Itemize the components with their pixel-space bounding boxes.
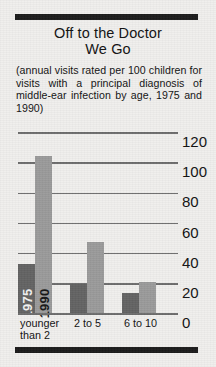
title-line-2: We Go [0,41,216,57]
y-axis-tick-40: 40 [182,255,216,270]
top-rule [15,14,198,20]
bar-1990-1: 1990 [35,156,52,314]
bar-1990-2 [87,242,104,314]
title-line-1: Off to the Doctor [0,25,216,41]
bar-1975-3 [122,293,139,314]
chart-card: Off to the Doctor We Go (annual visits r… [0,0,216,367]
y-axis-tick-80: 80 [182,194,216,209]
page-title: Off to the Doctor We Go [0,25,216,57]
gridline-120 [18,132,178,134]
bar-1990-3 [139,282,156,314]
x-axis-category-2: 2 to 5 [74,318,101,330]
y-axis-tick-120: 120 [182,134,216,149]
bar-1975-2 [70,284,87,314]
bar-1975-1: 1975 [18,264,35,314]
y-axis-tick-0: 0 [182,315,216,330]
bottom-rule [15,347,198,353]
y-axis-tick-20: 20 [182,285,216,300]
y-axis-tick-100: 100 [182,164,216,179]
axis-baseline [18,313,178,315]
chart-subtitle: (annual visits rated per 100 children fo… [16,64,202,114]
x-axis-category-3: 6 to 10 [124,318,157,330]
y-axis-tick-60: 60 [182,225,216,240]
plot-area: 02040608010012019751990 [18,133,178,314]
x-axis-category-1: younger than 2 [20,318,59,341]
